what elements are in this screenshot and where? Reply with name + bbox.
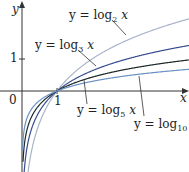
log5-label: y = log5 x (77, 103, 136, 119)
log5-pointer (84, 80, 87, 104)
log3-label: y = log3 x (35, 38, 94, 54)
log10-pointer (139, 76, 144, 116)
x-axis-label: x (180, 91, 187, 105)
log2-label: y = log2 x (69, 8, 128, 24)
log10-label: y = log10 x (134, 117, 189, 133)
y-axis-arrow-icon (19, 1, 25, 8)
log-chart: y x 0 1 1 y = log2 x y = log3 x y = log5… (0, 0, 189, 172)
y-tick-1-label: 1 (10, 51, 18, 65)
x-tick-1-label: 1 (54, 94, 62, 108)
origin-label: 0 (9, 93, 17, 107)
plot-area (0, 0, 189, 172)
y-axis-label: y (12, 2, 19, 16)
